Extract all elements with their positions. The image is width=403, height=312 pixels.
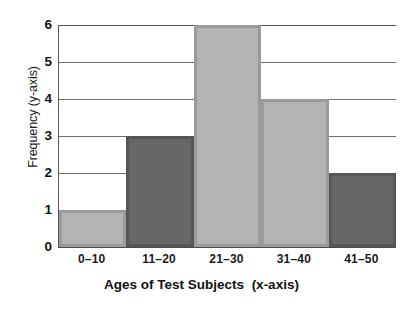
x-tick-21-30: 21–30 <box>193 252 260 266</box>
plot-area <box>58 25 396 248</box>
bar-41-50 <box>329 173 396 247</box>
x-axis-title-suffix: (x-axis) <box>252 277 299 292</box>
y-tick-5: 5 <box>34 55 52 69</box>
y-tick-4: 4 <box>34 92 52 106</box>
y-tick-0: 0 <box>34 240 52 254</box>
x-tick-31-40: 31–40 <box>260 252 327 266</box>
bar-21-30 <box>194 25 261 247</box>
y-tick-2: 2 <box>34 166 52 180</box>
y-tick-1: 1 <box>34 203 52 217</box>
y-tick-6: 6 <box>34 18 52 32</box>
x-axis-title-text: Ages of Test Subjects <box>104 277 244 292</box>
y-tick-3: 3 <box>34 129 52 143</box>
bar-31-40 <box>261 99 328 247</box>
x-tick-41-50: 41–50 <box>328 252 395 266</box>
bar-11-20 <box>126 136 193 247</box>
histogram-figure: Frequency (y-axis) 6 5 4 3 2 1 0 0–10 11… <box>0 0 403 312</box>
y-axis-tick-labels: 6 5 4 3 2 1 0 <box>34 0 52 312</box>
x-tick-0-10: 0–10 <box>58 252 125 266</box>
x-tick-11-20: 11–20 <box>125 252 192 266</box>
x-axis-tick-labels: 0–10 11–20 21–30 31–40 41–50 <box>58 252 395 266</box>
bar-series <box>59 25 396 247</box>
x-axis-title: Ages of Test Subjects (x-axis) <box>0 277 403 292</box>
bar-0-10 <box>59 210 126 247</box>
